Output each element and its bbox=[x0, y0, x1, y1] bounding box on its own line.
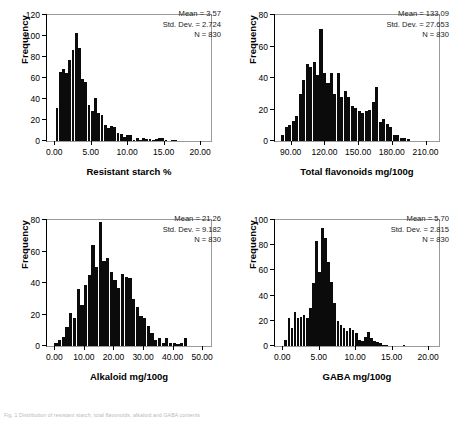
x-axis-tick bbox=[91, 141, 92, 145]
stat-std-dev: Std. Dev. = 9.182 bbox=[163, 225, 221, 236]
y-axis-tick-label: 100 bbox=[234, 215, 268, 225]
y-axis-tick bbox=[42, 119, 47, 120]
y-axis-tick-label: 60 bbox=[234, 42, 268, 52]
x-axis-tick-label: 0.00 bbox=[46, 352, 63, 362]
y-axis-tick-label: 40 bbox=[234, 291, 268, 301]
x-axis-tick-label: 5.00 bbox=[82, 147, 99, 157]
x-axis-tick-label: 120.00 bbox=[311, 147, 337, 157]
y-axis-tick bbox=[42, 345, 47, 346]
panel-total-flavonoids: Frequency 02040608090.00120.00150.00180.… bbox=[228, 0, 455, 205]
histogram-bar bbox=[385, 345, 388, 346]
y-axis-tick-label: 60 bbox=[6, 73, 40, 83]
y-axis-tick-label: 0 bbox=[6, 341, 40, 351]
stat-n: N = 830 bbox=[163, 30, 221, 41]
y-axis-tick bbox=[270, 46, 275, 47]
x-axis-tick bbox=[392, 346, 393, 350]
y-axis-tick bbox=[42, 251, 47, 252]
stats-annotation: Mean = 133.09 Std. Dev. = 27.653 N = 830 bbox=[386, 9, 449, 41]
stat-n: N = 830 bbox=[163, 235, 221, 246]
x-axis-tick bbox=[291, 141, 292, 145]
y-axis-tick-label: 60 bbox=[234, 265, 268, 275]
stats-annotation: Mean = 21.26 Std. Dev. = 9.182 N = 830 bbox=[163, 214, 221, 246]
histogram-bar bbox=[403, 345, 406, 346]
y-axis-tick bbox=[270, 295, 275, 296]
x-axis-tick bbox=[355, 346, 356, 350]
y-axis-tick-label: 80 bbox=[234, 240, 268, 250]
x-axis-tick-label: 15.00 bbox=[153, 147, 174, 157]
x-axis-tick-label: 50.00 bbox=[191, 352, 212, 362]
x-axis-tick-label: 15.00 bbox=[381, 352, 402, 362]
x-axis-tick-label: 10.00 bbox=[345, 352, 366, 362]
x-axis-tick bbox=[282, 346, 283, 350]
x-axis-tick-label: 150.00 bbox=[345, 147, 371, 157]
x-axis-tick bbox=[173, 346, 174, 350]
x-axis-tick-label: 180.00 bbox=[379, 147, 405, 157]
x-axis-tick-label: 20.00 bbox=[417, 352, 438, 362]
x-axis-tick bbox=[84, 346, 85, 350]
x-axis-tick bbox=[54, 346, 55, 350]
x-axis-title: Total flavonoids mg/100g bbox=[274, 166, 440, 177]
x-axis-tick bbox=[428, 346, 429, 350]
y-axis-tick bbox=[42, 56, 47, 57]
x-axis-tick-label: 0.00 bbox=[274, 352, 291, 362]
y-axis-tick bbox=[270, 219, 275, 220]
y-axis-tick bbox=[270, 269, 275, 270]
y-axis-tick-label: 120 bbox=[6, 10, 40, 20]
stat-mean: Mean = 3.57 bbox=[163, 9, 221, 20]
y-axis-tick bbox=[42, 77, 47, 78]
panel-resistant-starch: Frequency 0204060801001200.005.0010.0015… bbox=[0, 0, 227, 205]
y-axis-tick bbox=[270, 345, 275, 346]
x-axis-tick-label: 40.00 bbox=[162, 352, 183, 362]
x-axis-title: GABA mg/100g bbox=[274, 371, 440, 382]
stats-annotation: Mean = 5.70 Std. Dev. = 2.815 N = 830 bbox=[391, 214, 449, 246]
y-axis-tick bbox=[42, 314, 47, 315]
y-axis-tick-label: 40 bbox=[6, 278, 40, 288]
x-axis-tick bbox=[358, 141, 359, 145]
y-axis-tick-label: 80 bbox=[234, 10, 268, 20]
x-axis-tick bbox=[202, 346, 203, 350]
x-axis-tick-label: 30.00 bbox=[132, 352, 153, 362]
x-axis-tick bbox=[127, 141, 128, 145]
stat-mean: Mean = 133.09 bbox=[386, 9, 449, 20]
x-axis-tick-label: 20.00 bbox=[189, 147, 210, 157]
x-axis-tick bbox=[113, 346, 114, 350]
y-axis-tick-label: 20 bbox=[6, 310, 40, 320]
x-axis-tick-label: 0.00 bbox=[46, 147, 63, 157]
x-axis-title: Resistant starch % bbox=[46, 166, 212, 177]
y-axis-tick bbox=[270, 77, 275, 78]
y-axis-tick-label: 80 bbox=[6, 52, 40, 62]
figure-caption: Fig. 1 Distribution of resistant starch,… bbox=[4, 412, 200, 419]
y-axis-tick-label: 100 bbox=[6, 31, 40, 41]
stat-n: N = 830 bbox=[391, 235, 449, 246]
y-axis-tick bbox=[42, 35, 47, 36]
y-axis-tick bbox=[270, 320, 275, 321]
y-axis-tick bbox=[42, 140, 47, 141]
y-axis-tick-label: 20 bbox=[234, 105, 268, 115]
x-axis-tick-label: 5.00 bbox=[310, 352, 327, 362]
y-axis-tick bbox=[42, 282, 47, 283]
x-axis-tick-label: 10.00 bbox=[117, 147, 138, 157]
y-axis-tick bbox=[270, 14, 275, 15]
y-axis-tick-label: 0 bbox=[234, 341, 268, 351]
histogram-bar bbox=[407, 139, 410, 141]
x-axis-tick bbox=[143, 346, 144, 350]
y-axis-tick bbox=[42, 219, 47, 220]
y-axis-tick-label: 60 bbox=[6, 247, 40, 257]
stats-annotation: Mean = 3.57 Std. Dev. = 2.724 N = 830 bbox=[163, 9, 221, 41]
x-axis-tick bbox=[426, 141, 427, 145]
x-axis-tick bbox=[392, 141, 393, 145]
x-axis-title: Alkaloid mg/100g bbox=[46, 371, 212, 382]
y-axis-tick-label: 40 bbox=[6, 94, 40, 104]
y-axis-tick bbox=[270, 140, 275, 141]
x-axis-tick-label: 210.00 bbox=[413, 147, 439, 157]
histogram-bar bbox=[174, 140, 177, 141]
stat-std-dev: Std. Dev. = 2.815 bbox=[391, 225, 449, 236]
y-axis-tick bbox=[270, 244, 275, 245]
x-axis-tick bbox=[164, 141, 165, 145]
x-axis-tick bbox=[54, 141, 55, 145]
x-axis-tick bbox=[324, 141, 325, 145]
y-axis-tick-label: 0 bbox=[234, 136, 268, 146]
histogram-bar bbox=[184, 338, 187, 346]
y-axis-tick bbox=[270, 109, 275, 110]
y-axis-tick-label: 20 bbox=[6, 115, 40, 125]
